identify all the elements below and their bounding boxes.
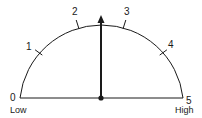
tick-2 <box>76 20 79 29</box>
tick-label-4: 4 <box>168 39 174 50</box>
gauge-needle <box>98 15 105 101</box>
tick-3 <box>123 20 126 29</box>
needle-pivot <box>98 95 103 100</box>
tick-label-0: 0 <box>10 92 16 103</box>
high-label: High <box>175 105 194 115</box>
semicircle-gauge: 0 1 2 3 4 5 Low High <box>0 0 202 118</box>
low-label: Low <box>10 105 27 115</box>
tick-label-3: 3 <box>124 6 130 17</box>
tick-label-1: 1 <box>26 41 32 52</box>
arrow-up-icon <box>98 15 105 23</box>
tick-label-2: 2 <box>72 6 78 17</box>
